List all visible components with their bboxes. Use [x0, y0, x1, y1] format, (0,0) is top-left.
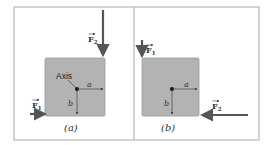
axis-point-b — [170, 87, 174, 91]
axis-label: Axis — [56, 71, 72, 81]
panel-b: a b F1 F2 (b) — [142, 40, 248, 133]
dimension-b-label: b — [68, 99, 73, 108]
force-f1-label-b: F1 — [146, 45, 156, 56]
panel-a: Axis a b F2 F1 (a) — [30, 10, 105, 133]
dimension-a-label-b: a — [184, 80, 189, 89]
force-f1-label-a: F1 — [32, 100, 42, 111]
dimension-b-label-b: b — [164, 99, 169, 108]
force-f2-label-b: F2 — [212, 101, 222, 112]
force-f2-label-a: F2 — [88, 34, 98, 45]
rigid-body-torque-diagram: Axis a b F2 F1 (a) a b F1 F2 — [0, 0, 270, 145]
caption-a: (a) — [64, 122, 78, 133]
block-b — [142, 58, 199, 116]
dimension-a-label: a — [87, 80, 92, 89]
caption-b: (b) — [161, 122, 175, 133]
